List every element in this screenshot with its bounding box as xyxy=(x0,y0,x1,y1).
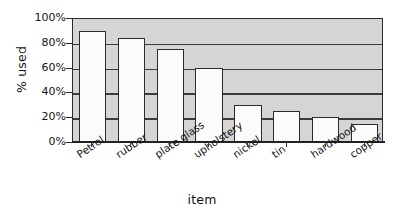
x-axis-tick-mark xyxy=(169,142,170,147)
y-axis-tick-mark xyxy=(66,92,73,93)
y-axis-tick-label: 60% xyxy=(26,62,66,73)
x-axis-tick-mark xyxy=(364,142,365,147)
x-axis-tick-mark xyxy=(325,142,326,147)
x-axis-tick-mark xyxy=(130,142,131,147)
y-axis-tick-label: 100% xyxy=(26,12,66,23)
x-axis-tick-mark xyxy=(91,142,92,147)
bar xyxy=(157,49,184,141)
y-axis-tick-label: 0% xyxy=(26,136,66,147)
x-axis-tick-mark xyxy=(208,142,209,147)
bar xyxy=(79,31,106,141)
y-axis-tick-mark xyxy=(66,18,73,19)
y-axis-tick-label: 20% xyxy=(26,111,66,122)
x-axis-tick-mark xyxy=(286,142,287,147)
y-axis-tick-labels: 0%20%40%60%80%100% xyxy=(24,0,66,217)
x-axis-category-label: tin xyxy=(270,143,288,160)
y-axis-tick-mark xyxy=(66,68,73,69)
y-axis-tick-label: 80% xyxy=(26,37,66,48)
x-axis-title: item xyxy=(0,192,404,207)
y-axis-tick-mark xyxy=(66,43,73,44)
x-axis-tick-mark xyxy=(247,142,248,147)
y-axis-tick-label: 40% xyxy=(26,86,66,97)
bar xyxy=(273,111,300,141)
y-axis-tick-mark xyxy=(66,117,73,118)
plot-area xyxy=(72,18,383,142)
bar xyxy=(118,38,145,141)
bar-chart: % used 0%20%40%60%80%100% Petrolrubberpl… xyxy=(0,0,404,217)
y-axis-tick-mark xyxy=(66,142,73,143)
